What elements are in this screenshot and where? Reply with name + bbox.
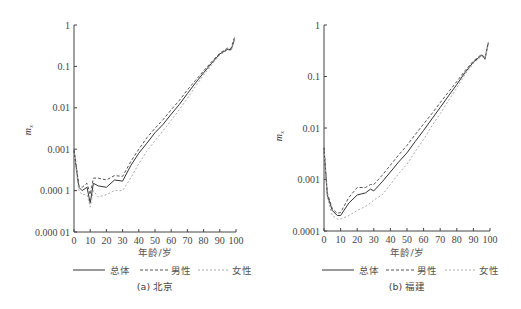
x-tick-label: 0 xyxy=(322,234,327,245)
x-tick-label: 70 xyxy=(435,234,445,245)
y-tick-label: 0.001 xyxy=(298,174,321,185)
series-line-solid xyxy=(324,43,488,216)
x-tick-label: 30 xyxy=(118,235,128,246)
legend-label-female: 女性 xyxy=(232,265,252,276)
legend: 总体 男性 女性 xyxy=(322,265,499,276)
y-tick-label: 1 xyxy=(65,20,70,31)
x-tick-label: 80 xyxy=(199,235,209,246)
x-axis-label: 年龄/岁 xyxy=(390,247,423,258)
x-tick-label: 40 xyxy=(134,235,144,246)
series-line-dotted xyxy=(324,44,488,219)
x-tick-label: 60 xyxy=(166,235,176,246)
y-tick-label: 0.001 xyxy=(48,144,71,155)
x-tick-label: 20 xyxy=(101,235,111,246)
legend: 总体 男性 女性 xyxy=(73,265,252,276)
x-axis-label: 年龄/岁 xyxy=(138,247,171,258)
x-tick-label: 30 xyxy=(369,234,379,245)
plot-lines xyxy=(324,42,488,219)
figure: 10.10.010.0010.000 10.000 01010203040506… xyxy=(0,0,521,309)
x-tick-label: 50 xyxy=(402,234,412,245)
x-tick-label: 100 xyxy=(483,234,498,245)
x-tick-label: 0 xyxy=(72,235,77,246)
caption-beijing: (a) 北京 xyxy=(137,281,173,292)
y-tick-label: 1 xyxy=(315,20,320,31)
x-tick-label: 50 xyxy=(150,235,160,246)
x-tick-label: 60 xyxy=(419,234,429,245)
chart-beijing: 10.10.010.0010.000 10.000 01010203040506… xyxy=(22,20,252,293)
series-line-dashed xyxy=(324,42,488,214)
y-tick-label: 0.01 xyxy=(53,102,71,113)
x-tick-label: 90 xyxy=(468,234,478,245)
x-tick-label: 80 xyxy=(452,234,462,245)
y-tick-label: 0.000 01 xyxy=(35,227,70,238)
legend-label-male: 男性 xyxy=(171,265,191,276)
x-tick-label: 10 xyxy=(85,235,95,246)
plot-lines xyxy=(74,38,234,208)
y-tick-label: 0.000 1 xyxy=(40,185,70,196)
x-tick-label: 70 xyxy=(182,235,192,246)
x-tick-label: 40 xyxy=(385,234,395,245)
x-tick-label: 10 xyxy=(336,234,346,245)
x-tick-label: 100 xyxy=(229,235,244,246)
caption-fujian: (b) 福建 xyxy=(389,281,425,292)
y-tick-label: 0.1 xyxy=(308,71,321,82)
legend-label-total: 总体 xyxy=(359,265,379,276)
axes: 10.10.010.0010.0001010203040506070809010… xyxy=(293,20,498,246)
x-tick-label: 20 xyxy=(352,234,362,245)
y-axis-label: mx xyxy=(273,130,286,141)
legend-label-total: 总体 xyxy=(110,265,130,276)
y-tick-label: 0.0001 xyxy=(293,226,321,237)
y-tick-label: 0.01 xyxy=(303,123,321,134)
axes: 10.10.010.0010.000 10.000 01010203040506… xyxy=(35,20,244,247)
y-tick-label: 0.1 xyxy=(58,61,71,72)
x-tick-label: 90 xyxy=(215,235,225,246)
chart-fujian: 10.10.010.0010.0001010203040506070809010… xyxy=(273,20,499,293)
legend-label-male: 男性 xyxy=(417,265,437,276)
series-line-dashed xyxy=(74,38,234,195)
series-line-dotted xyxy=(74,41,234,208)
legend-label-female: 女性 xyxy=(479,265,499,276)
y-axis-label: mx xyxy=(22,124,35,135)
